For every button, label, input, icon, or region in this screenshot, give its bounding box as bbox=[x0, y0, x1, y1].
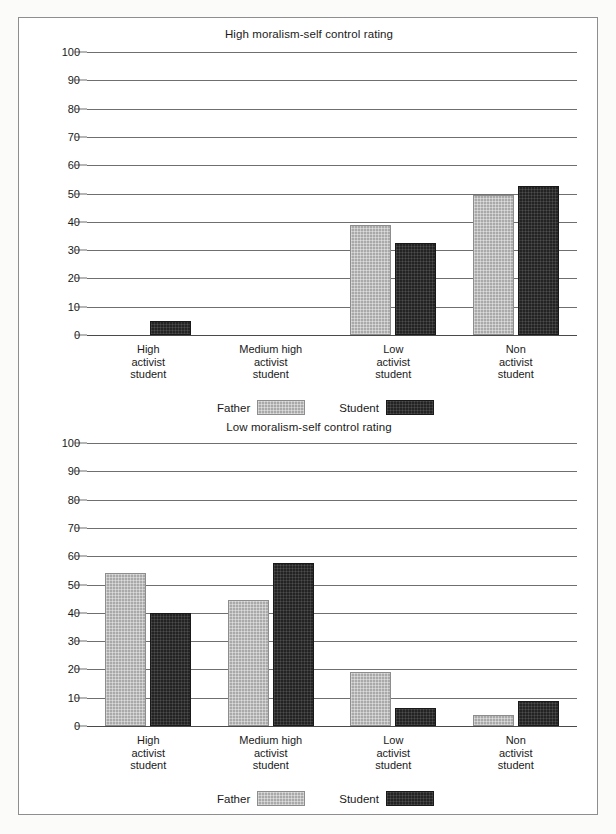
legend-label-student: Student bbox=[339, 793, 379, 805]
y-tick-label: 50 bbox=[68, 188, 80, 200]
gridline bbox=[87, 52, 577, 53]
legend-item-father: Father bbox=[217, 791, 305, 806]
category-label: High activist student bbox=[87, 343, 210, 381]
y-tick-label: 40 bbox=[68, 607, 80, 619]
bar-father bbox=[350, 672, 391, 726]
gridline bbox=[87, 556, 577, 557]
y-tick-label: 40 bbox=[68, 216, 80, 228]
y-tick-label: 50 bbox=[68, 579, 80, 591]
y-tick-label: 0 bbox=[74, 329, 80, 341]
bar-father bbox=[473, 195, 514, 335]
y-tick-label: 0 bbox=[74, 720, 80, 732]
legend-label-father: Father bbox=[217, 402, 250, 414]
plot-area: 0102030405060708090100 bbox=[87, 52, 577, 335]
chart-title: Low moralism-self control rating bbox=[19, 421, 599, 433]
y-tick-label: 100 bbox=[62, 437, 80, 449]
gridline bbox=[87, 585, 577, 586]
legend-swatch-student-icon bbox=[386, 400, 434, 415]
legend-item-student: Student bbox=[339, 791, 434, 806]
bar-father bbox=[105, 573, 146, 726]
gridline bbox=[87, 443, 577, 444]
bar-father bbox=[228, 600, 269, 726]
plot-area: 0102030405060708090100 bbox=[87, 443, 577, 726]
figure-page: High moralism-self control rating 010203… bbox=[0, 0, 616, 834]
y-tick-label: 30 bbox=[68, 635, 80, 647]
legend-label-father: Father bbox=[217, 793, 250, 805]
category-label: Medium high activist student bbox=[210, 343, 333, 381]
gridline bbox=[87, 500, 577, 501]
legend-swatch-father-icon bbox=[257, 791, 305, 806]
gridline bbox=[87, 726, 577, 727]
category-label: Non activist student bbox=[455, 343, 578, 381]
y-tick-label: 100 bbox=[62, 46, 80, 58]
y-tick-label: 70 bbox=[68, 131, 80, 143]
y-tick-label: 80 bbox=[68, 103, 80, 115]
gridline bbox=[87, 109, 577, 110]
bar-student bbox=[150, 321, 191, 335]
figure-frame: High moralism-self control rating 010203… bbox=[18, 17, 598, 815]
chart-low-moralism: Low moralism-self control rating 0102030… bbox=[19, 421, 599, 811]
gridline bbox=[87, 471, 577, 472]
y-tick-label: 10 bbox=[68, 301, 80, 313]
gridline bbox=[87, 335, 577, 336]
bar-father bbox=[473, 715, 514, 726]
y-tick-label: 90 bbox=[68, 74, 80, 86]
category-label: Non activist student bbox=[455, 734, 578, 772]
legend-swatch-student-icon bbox=[386, 791, 434, 806]
category-label: Low activist student bbox=[332, 734, 455, 772]
bar-student bbox=[518, 701, 559, 726]
category-label: High activist student bbox=[87, 734, 210, 772]
bar-student bbox=[273, 563, 314, 726]
gridline bbox=[87, 80, 577, 81]
legend-label-student: Student bbox=[339, 402, 379, 414]
bar-father bbox=[350, 225, 391, 335]
y-tick-label: 70 bbox=[68, 522, 80, 534]
legend: Father Student bbox=[217, 791, 434, 806]
y-tick-label: 20 bbox=[68, 272, 80, 284]
gridline bbox=[87, 528, 577, 529]
bar-student bbox=[395, 708, 436, 726]
y-tick-label: 10 bbox=[68, 692, 80, 704]
legend-item-student: Student bbox=[339, 400, 434, 415]
y-tick-label: 80 bbox=[68, 494, 80, 506]
y-tick-label: 30 bbox=[68, 244, 80, 256]
y-tick-label: 60 bbox=[68, 159, 80, 171]
y-tick-label: 20 bbox=[68, 663, 80, 675]
legend: Father Student bbox=[217, 400, 434, 415]
y-tick-label: 60 bbox=[68, 550, 80, 562]
legend-item-father: Father bbox=[217, 400, 305, 415]
bar-student bbox=[150, 613, 191, 726]
chart-high-moralism: High moralism-self control rating 010203… bbox=[19, 28, 599, 413]
gridline bbox=[87, 165, 577, 166]
gridline bbox=[87, 137, 577, 138]
bar-student bbox=[518, 186, 559, 335]
chart-title: High moralism-self control rating bbox=[19, 28, 599, 40]
category-label: Low activist student bbox=[332, 343, 455, 381]
bar-student bbox=[395, 243, 436, 335]
y-tick-label: 90 bbox=[68, 465, 80, 477]
category-label: Medium high activist student bbox=[210, 734, 333, 772]
legend-swatch-father-icon bbox=[257, 400, 305, 415]
